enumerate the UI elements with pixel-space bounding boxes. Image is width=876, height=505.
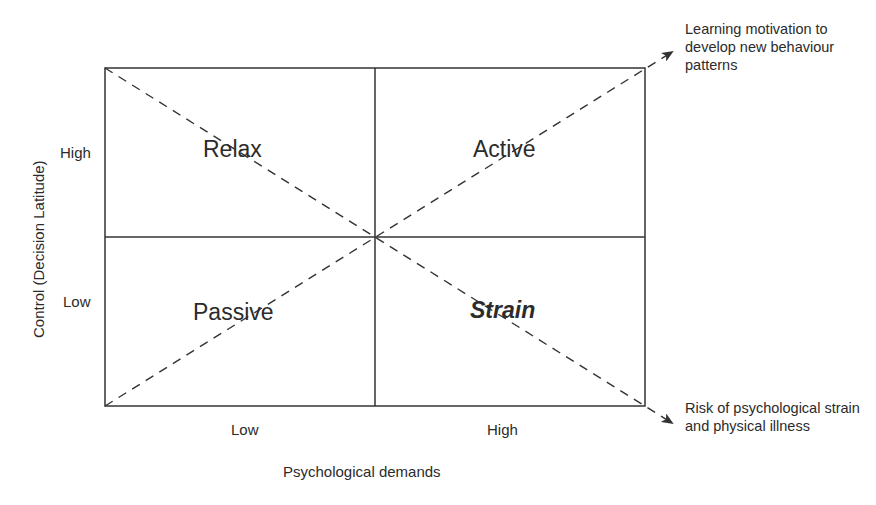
quadrant-active: Active [473, 138, 536, 161]
diagonal-arrow-learning [105, 52, 672, 406]
y-tick-low: Low [63, 294, 91, 309]
quadrant-strain: Strain [470, 299, 535, 322]
diagonal-arrow-strain [105, 68, 672, 423]
quadrant-relax: Relax [203, 138, 262, 161]
annotation-learning: Learning motivation to develop new behav… [685, 20, 865, 74]
x-tick-low: Low [231, 422, 259, 437]
y-tick-high: High [60, 145, 91, 160]
x-axis-label: Psychological demands [283, 464, 441, 479]
annotation-risk: Risk of psychological strain and physica… [685, 399, 865, 435]
quadrant-passive: Passive [193, 301, 274, 324]
x-tick-high: High [487, 422, 518, 437]
y-axis-label: Control (Decision Latitude) [31, 160, 46, 338]
